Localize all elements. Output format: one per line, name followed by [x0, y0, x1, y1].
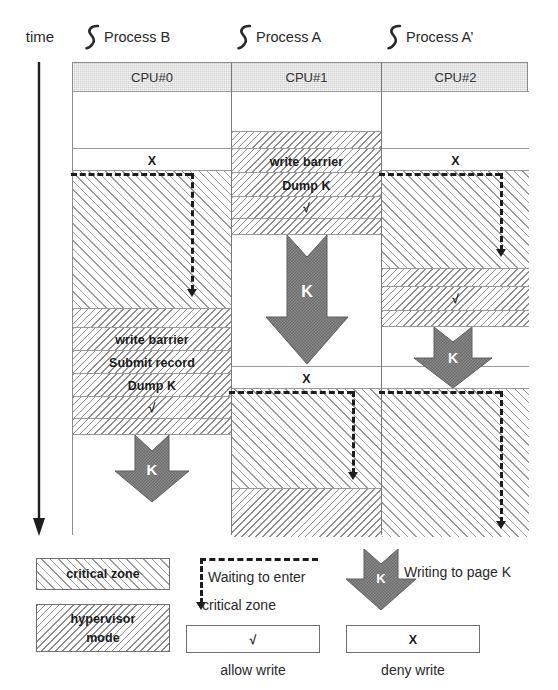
cell-cpu1-4: √ — [232, 196, 381, 219]
writing-to-page-arrow: K — [264, 235, 350, 365]
legend-deny-caption: deny write — [346, 662, 480, 678]
waiting-dash-horizontal — [379, 173, 501, 176]
cell-cpu2-5 — [382, 310, 529, 327]
legend-deny-write-box: X — [346, 625, 480, 653]
column-header-cpu1: CPU#1 — [232, 70, 381, 85]
writing-to-page-arrow: K — [113, 435, 191, 503]
cell-cpu1-3: Dump K — [232, 172, 381, 197]
cell-cpu0-2-critical-zone — [73, 170, 231, 309]
legend-hypervisor-mode-swatch: hypervisor mode — [36, 604, 170, 652]
cell-cpu1-2: write barrier — [232, 148, 381, 173]
cell-cpu0-6: Dump K — [73, 373, 231, 397]
cell-cpu2-3 — [382, 268, 529, 287]
svg-text:K: K — [301, 283, 313, 300]
legend-critical-zone-swatch: critical zone — [36, 558, 170, 590]
diagram-canvas: time Process B Process A Process A’ — [0, 0, 558, 690]
process-squiggle-icon — [84, 23, 102, 51]
waiting-dash-vertical — [352, 391, 355, 474]
time-axis-label: time — [10, 28, 70, 45]
waiting-dash-horizontal — [379, 391, 501, 394]
column-cpu1: CPU#1 write barrier Dump K √ X — [232, 63, 381, 534]
cell-cpu1-1 — [232, 131, 381, 149]
waiting-dash-vertical — [191, 173, 194, 291]
cell-cpu1-5 — [232, 218, 381, 235]
cell-cpu2-4: √ — [382, 286, 529, 311]
process-name: Process B — [104, 29, 170, 45]
column-cpu0: CPU#0 X write barrier Submit record Dump… — [73, 63, 231, 534]
waiting-dash-horizontal — [71, 173, 191, 176]
column-header-cpu2: CPU#2 — [382, 70, 529, 85]
cell-label: write barrier — [232, 156, 381, 169]
cell-label: X — [232, 373, 381, 386]
column-cpu2: CPU#2 X √ X — [382, 63, 529, 534]
time-axis-arrow — [30, 62, 48, 537]
waiting-dash-arrowhead — [496, 521, 506, 529]
process-squiggle-icon — [236, 23, 254, 51]
legend-allow-caption: allow write — [186, 662, 320, 678]
process-header-a-prime: Process A’ — [386, 22, 473, 52]
legend-waiting-text-line2: critical zone — [202, 597, 276, 613]
cell-cpu2-8-critical-zone — [382, 388, 529, 537]
legend-writing-arrow: K — [344, 549, 418, 615]
svg-text:K: K — [147, 461, 158, 478]
process-header-a: Process A — [236, 22, 321, 52]
cell-cpu1-0 — [232, 91, 381, 132]
legend-hypervisor-mode-label-2: mode — [37, 632, 169, 645]
process-squiggle-icon — [386, 23, 404, 51]
legend-allow-symbol: √ — [187, 634, 319, 647]
cell-cpu1-7: X — [232, 366, 381, 389]
legend-dash-horizontal — [200, 558, 318, 561]
cell-cpu0-5: Submit record — [73, 350, 231, 374]
legend-deny-symbol: X — [347, 634, 479, 647]
cell-label: X — [382, 155, 529, 168]
waiting-dash-arrowhead — [348, 472, 358, 480]
cell-cpu2-0 — [382, 91, 529, 149]
svg-text:K: K — [448, 350, 458, 366]
cell-cpu0-7: √ — [73, 396, 231, 419]
cell-cpu2-2-critical-zone — [382, 170, 529, 269]
cell-label: √ — [382, 293, 529, 306]
cell-cpu0-3 — [73, 308, 231, 328]
cell-label: Dump K — [73, 380, 231, 393]
waiting-dash-arrowhead — [496, 249, 506, 257]
process-name: Process A’ — [406, 29, 473, 45]
process-name: Process A — [256, 29, 321, 45]
cell-cpu1-9 — [232, 488, 381, 537]
cell-cpu0-1: X — [73, 148, 231, 171]
svg-text:K: K — [376, 571, 386, 586]
waiting-dash-vertical — [500, 173, 503, 251]
cell-cpu0-4: write barrier — [73, 327, 231, 351]
cell-label: Submit record — [73, 357, 231, 370]
writing-to-page-arrow: K — [412, 327, 494, 389]
legend-allow-write-box: √ — [186, 625, 320, 653]
cell-cpu1-8-critical-zone — [232, 388, 381, 489]
process-header-b: Process B — [84, 22, 170, 52]
column-header-cpu0: CPU#0 — [73, 70, 231, 85]
waiting-dash-vertical — [500, 391, 503, 523]
cell-label: write barrier — [73, 334, 231, 347]
legend-hypervisor-mode-label-1: hypervisor — [37, 613, 169, 626]
cell-label: √ — [73, 402, 231, 415]
waiting-dash-arrowhead — [187, 289, 197, 297]
cell-label: X — [73, 155, 231, 168]
timeline-grid: CPU#0 X write barrier Submit record Dump… — [72, 62, 528, 535]
legend-waiting-text-line1: Waiting to enter — [208, 569, 306, 585]
cell-label: Dump K — [232, 180, 381, 193]
legend-writing-text: Writing to page K — [404, 564, 511, 580]
cell-cpu2-1: X — [382, 148, 529, 171]
cell-cpu0-0 — [73, 91, 231, 149]
legend-critical-zone-label: critical zone — [37, 568, 169, 581]
cell-label: √ — [232, 202, 381, 215]
waiting-dash-horizontal — [229, 391, 353, 394]
cell-cpu0-8 — [73, 418, 231, 435]
